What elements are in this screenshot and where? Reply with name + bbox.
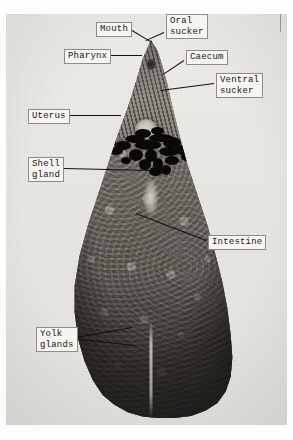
label-shell-gland: Shell gland bbox=[28, 157, 64, 182]
label-ventral-sucker: Ventral sucker bbox=[216, 73, 263, 98]
label-intestine: Intestine bbox=[208, 235, 266, 250]
label-yolk-glands: Yolk glands bbox=[36, 327, 78, 352]
label-caecum: Caecum bbox=[186, 50, 228, 65]
label-uterus: Uterus bbox=[28, 109, 70, 124]
label-pharynx: Pharynx bbox=[64, 49, 111, 64]
leader-line-uterus bbox=[68, 115, 121, 116]
figure-fasciola-hepatica: MouthOral suckerPharynxCaecumVentral suc… bbox=[0, 0, 293, 440]
leader-line-pharynx bbox=[110, 55, 142, 56]
label-mouth: Mouth bbox=[96, 22, 132, 37]
label-oral-sucker: Oral sucker bbox=[166, 14, 208, 39]
scan-artifact-mark bbox=[280, 14, 281, 32]
